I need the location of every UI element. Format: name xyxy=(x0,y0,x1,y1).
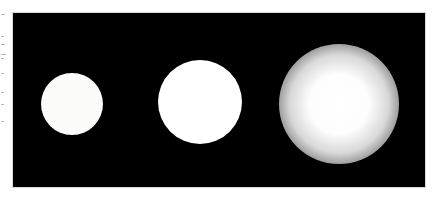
text-fragment xyxy=(1,92,4,93)
text-fragment xyxy=(1,121,4,122)
image-panel xyxy=(12,12,426,188)
text-fragment xyxy=(1,36,4,37)
text-fragment xyxy=(1,104,4,105)
heavily-blurred-spot xyxy=(279,44,399,164)
slightly-blurred-spot xyxy=(158,60,242,144)
text-fragment xyxy=(1,14,5,15)
text-fragment xyxy=(1,54,6,55)
text-fragment xyxy=(1,58,4,59)
text-fragment xyxy=(1,73,4,74)
text-fragment xyxy=(1,44,5,45)
sharp-spot xyxy=(41,73,103,135)
cropped-text-fragments xyxy=(0,0,12,200)
